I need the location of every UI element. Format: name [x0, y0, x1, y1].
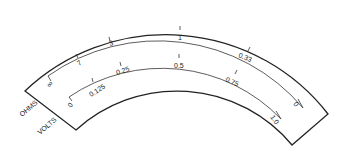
volts-start-hook — [69, 97, 72, 101]
scale-frame — [25, 35, 328, 145]
volts-tick-label: 0.75 — [225, 76, 240, 88]
ohms-tick-label: ∞ — [44, 79, 55, 89]
ohms-tick-label: 7 — [76, 59, 83, 67]
volts-label: VOLTS — [36, 116, 58, 136]
volts-tick-label: 0 — [66, 101, 74, 108]
volts-tick-label: 0.25 — [115, 65, 130, 76]
volts-tick-label: 0.5 — [174, 62, 184, 69]
meter-scale-diagram: ∞ 7 3 1 0.33 0 0 0.125 0.25 0.5 0.75 1.0… — [0, 0, 345, 152]
ohms-label: OHMS — [18, 99, 39, 118]
ohms-tick-label: 3 — [108, 39, 114, 47]
ohms-tick-label: 0 — [292, 101, 300, 108]
ohms-tick-label: 1 — [178, 34, 182, 41]
ohms-ticks — [76, 26, 250, 58]
